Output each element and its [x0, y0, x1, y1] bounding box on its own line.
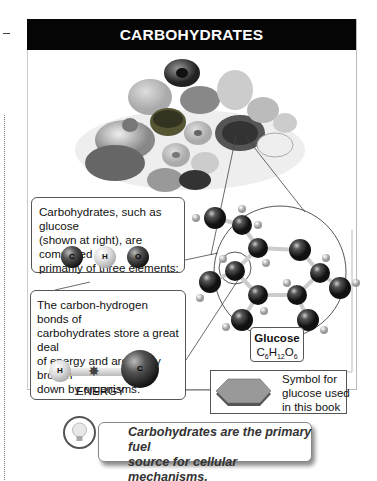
box2-line: carbohydrates store a great deal: [37, 326, 180, 354]
symbol-description: Symbol for glucose used in this book: [282, 372, 352, 414]
formula-o-count: 6: [294, 353, 298, 360]
callout-line: Carbohydrates are the primary fuel: [128, 425, 318, 455]
hexagon-glucose-icon: [216, 376, 271, 410]
hydrogen-atom-icon: H: [94, 246, 116, 268]
glucose-name: Glucose: [251, 331, 303, 345]
callout-line: source for cellular mechanisms.: [128, 455, 318, 481]
glucose-label: Glucose C6H12O6: [250, 327, 304, 362]
formula-h: H: [269, 346, 277, 358]
box1-line: Carbohydrates, such as glucose: [39, 205, 179, 233]
energy-info-box: The carbon-hydrogen bonds of carbohydrat…: [30, 290, 186, 400]
energy-burst-icon: ✸: [88, 362, 100, 380]
lightbulb-icon: [65, 418, 94, 447]
carbon-atom-icon: C: [61, 246, 83, 268]
formula-o: O: [285, 346, 294, 358]
symbol-line: in this book: [282, 400, 352, 414]
key-point-text: Carbohydrates are the primary fuel sourc…: [128, 425, 318, 481]
lightbulb-icon-frame: [63, 416, 96, 449]
glucose-formula: C6H12O6: [251, 345, 303, 364]
hydrogen-atom-icon: H: [49, 360, 71, 382]
symbol-line: glucose used: [282, 386, 352, 400]
carbon-atom-icon: C: [121, 350, 159, 388]
oxygen-atom-icon: O: [127, 246, 149, 268]
energy-label: ENERGY: [76, 384, 125, 398]
formula-h-count: 12: [277, 353, 285, 360]
symbol-line: Symbol for: [282, 372, 352, 386]
box2-line: The carbon-hydrogen bonds of: [37, 298, 180, 326]
elements-info-box: Carbohydrates, such as glucose (shown at…: [31, 197, 185, 273]
formula-c: C: [256, 346, 264, 358]
